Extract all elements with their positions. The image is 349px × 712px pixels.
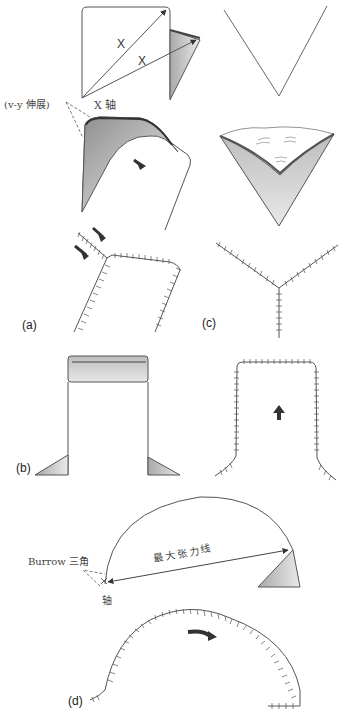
diagram-canvas xyxy=(0,0,349,712)
panel-label-d: (d) xyxy=(68,694,83,708)
x-axis-label: X 轴 xyxy=(94,96,116,112)
panel-d-suture-result xyxy=(90,609,300,709)
panel-label-c: (c) xyxy=(202,316,216,330)
vector-label-x-lower: X xyxy=(138,54,146,68)
burrow-triangle-label: Burrow 三角 xyxy=(28,553,89,568)
vector-label-x-upper: X xyxy=(117,37,125,51)
pivot-axis-label: 轴 xyxy=(102,592,112,607)
v-incision-diagram xyxy=(224,6,327,96)
panel-b-advancement-flap xyxy=(35,356,180,475)
rotated-flap-diagram xyxy=(66,102,191,230)
v-closure-diagram xyxy=(220,127,334,226)
panel-b-suture-result xyxy=(215,359,336,480)
panel-a-suture-line xyxy=(74,228,181,332)
panel-label-b: (b) xyxy=(16,461,31,475)
panel-label-a: (a) xyxy=(22,318,37,332)
vy-extension-label: (v-y 伸展) xyxy=(4,96,50,111)
panel-c-y-suture xyxy=(216,242,338,338)
